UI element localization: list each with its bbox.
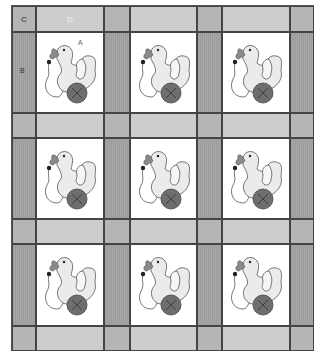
horizontal-sashing bbox=[130, 6, 197, 32]
horizontal-sashing bbox=[222, 326, 290, 351]
cornerstone bbox=[290, 326, 314, 351]
vertical-sashing: B bbox=[12, 32, 36, 113]
duck-on-wheel-icon bbox=[227, 39, 287, 109]
vertical-sashing bbox=[197, 32, 222, 113]
horizontal-sashing bbox=[130, 219, 197, 244]
vertical-sashing bbox=[290, 138, 314, 219]
horizontal-sashing bbox=[222, 6, 290, 32]
label-c: C bbox=[21, 15, 27, 24]
quilt-diagram: CDBA bbox=[11, 5, 314, 351]
duck-on-wheel-icon bbox=[227, 145, 287, 215]
vertical-sashing bbox=[104, 32, 130, 113]
cornerstone bbox=[12, 113, 36, 138]
duck-block: A bbox=[36, 32, 104, 113]
vertical-sashing bbox=[290, 244, 314, 326]
duck-on-wheel-icon bbox=[41, 145, 101, 215]
label-b: B bbox=[20, 67, 25, 74]
duck-on-wheel-icon bbox=[135, 145, 195, 215]
horizontal-sashing: D bbox=[36, 6, 104, 32]
cornerstone bbox=[197, 326, 222, 351]
vertical-sashing bbox=[12, 138, 36, 219]
cornerstone bbox=[290, 6, 314, 32]
cornerstone bbox=[104, 326, 130, 351]
cornerstone bbox=[12, 326, 36, 351]
horizontal-sashing bbox=[130, 113, 197, 138]
cornerstone bbox=[197, 6, 222, 32]
duck-block bbox=[130, 32, 197, 113]
horizontal-sashing bbox=[36, 113, 104, 138]
duck-block bbox=[222, 244, 290, 326]
vertical-sashing bbox=[197, 244, 222, 326]
duck-block bbox=[36, 244, 104, 326]
horizontal-sashing bbox=[130, 326, 197, 351]
duck-on-wheel-icon bbox=[135, 39, 195, 109]
vertical-sashing bbox=[290, 32, 314, 113]
duck-on-wheel-icon bbox=[135, 251, 195, 321]
label-d: D bbox=[67, 15, 73, 24]
horizontal-sashing bbox=[222, 113, 290, 138]
duck-on-wheel-icon bbox=[227, 251, 287, 321]
cornerstone bbox=[290, 219, 314, 244]
label-a: A bbox=[78, 39, 83, 46]
duck-block bbox=[36, 138, 104, 219]
horizontal-sashing bbox=[36, 219, 104, 244]
duck-on-wheel-icon bbox=[41, 39, 101, 109]
duck-block bbox=[130, 244, 197, 326]
cornerstone bbox=[197, 113, 222, 138]
cornerstone bbox=[12, 219, 36, 244]
vertical-sashing bbox=[104, 138, 130, 219]
cornerstone bbox=[104, 219, 130, 244]
horizontal-sashing bbox=[36, 326, 104, 351]
vertical-sashing bbox=[12, 244, 36, 326]
duck-block bbox=[222, 32, 290, 113]
vertical-sashing bbox=[197, 138, 222, 219]
vertical-sashing bbox=[104, 244, 130, 326]
duck-block bbox=[130, 138, 197, 219]
cornerstone: C bbox=[12, 6, 36, 32]
cornerstone bbox=[290, 113, 314, 138]
duck-on-wheel-icon bbox=[41, 251, 101, 321]
duck-block bbox=[222, 138, 290, 219]
cornerstone bbox=[197, 219, 222, 244]
cornerstone bbox=[104, 113, 130, 138]
cornerstone bbox=[104, 6, 130, 32]
horizontal-sashing bbox=[222, 219, 290, 244]
